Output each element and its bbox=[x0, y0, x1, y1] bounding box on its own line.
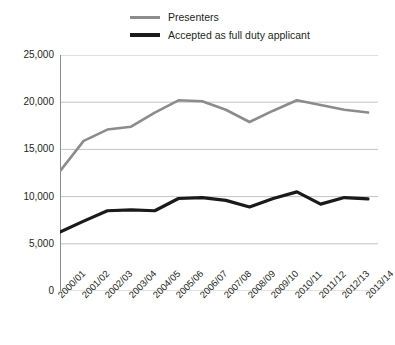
y-tick-label: 25,000 bbox=[23, 50, 54, 60]
y-tick-label: 10,000 bbox=[23, 192, 54, 202]
legend-swatch-accepted-icon bbox=[130, 33, 160, 37]
legend-item-accepted: Accepted as full duty applicant bbox=[130, 26, 310, 44]
plot-svg bbox=[60, 55, 378, 291]
series-line-presenters bbox=[60, 100, 368, 171]
y-tick-label: 5,000 bbox=[29, 239, 54, 249]
legend-item-presenters: Presenters bbox=[130, 8, 310, 26]
legend-swatch-presenters-icon bbox=[130, 16, 160, 19]
legend-label-accepted: Accepted as full duty applicant bbox=[168, 30, 310, 41]
chart-legend: Presenters Accepted as full duty applica… bbox=[130, 8, 310, 44]
series-line-accepted-as-full-duty-applicant bbox=[60, 192, 368, 232]
plot-area bbox=[60, 55, 378, 291]
legend-label-presenters: Presenters bbox=[168, 12, 219, 23]
y-tick-label: 20,000 bbox=[23, 97, 54, 107]
y-axis: 25,00020,00015,00010,0005,0000 bbox=[0, 55, 54, 291]
x-axis: 2000/012001/022002/032003/042004/052005/… bbox=[0, 293, 388, 345]
y-tick-label: 15,000 bbox=[23, 144, 54, 154]
